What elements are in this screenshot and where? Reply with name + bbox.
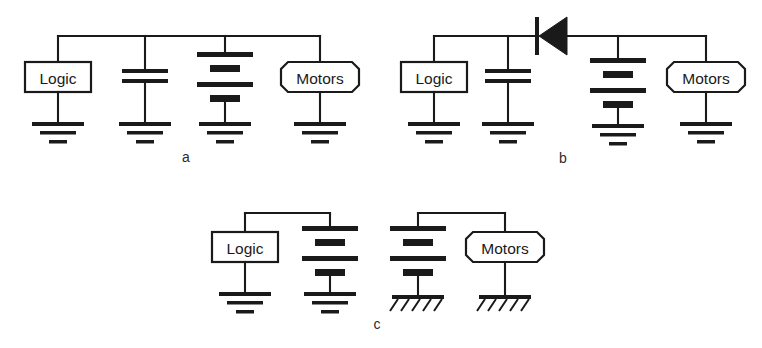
panel-b-motors-earth-ground [680,122,732,144]
panel-a-battery-branch [197,36,253,144]
panel-a-motors-earth-ground [294,122,346,144]
panel-c-logic-earth-ground [219,292,271,314]
panel-b-motors-branch: Motors [667,36,745,144]
panel-c-logic-branch: Logic [212,213,278,314]
panel-b-motors-label: Motors [682,70,730,87]
panel-a: Logic [25,36,359,165]
panel-b-diode [535,17,567,55]
panel-c-caption: c [374,316,381,332]
panel-b-diode-anode-triangle [539,17,567,55]
panel-a-logic-earth-ground [32,122,84,144]
panel-b-battery-earth-ground [592,124,644,146]
schematic-canvas: Logic [0,0,762,348]
panel-b-logic-branch: Logic [401,36,467,144]
panel-c-motors-subcircuit: Motors [390,213,544,311]
panel-a-caption: a [182,149,190,165]
panel-b-capacitor-earth-ground [482,122,534,144]
panel-c-logic-subcircuit: Logic [212,213,358,314]
panel-c: Logic [212,213,544,332]
panel-c-logic-label: Logic [226,240,263,257]
panel-b-logic-earth-ground [408,122,460,144]
panel-b-battery [590,58,646,108]
panel-c-motors-branch: Motors [466,213,544,311]
panel-b-capacitor-branch [482,36,534,144]
panel-a-capacitor-branch [119,36,171,144]
grounding-schematic-figure: Logic [0,0,762,348]
panel-a-logic-branch: Logic [25,36,91,144]
panel-c-left-battery-branch [302,213,358,314]
panel-b-caption: b [559,150,567,166]
panel-a-motors-branch: Motors [281,36,359,144]
panel-c-motors-chassis-ground [477,295,531,311]
panel-c-right-battery-branch [390,213,446,311]
panel-b-logic-label: Logic [415,70,452,87]
panel-b: Logic [401,17,745,166]
panel-a-motors-label: Motors [296,70,344,87]
panel-a-battery-earth-ground [199,122,251,144]
panel-a-capacitor [122,69,168,83]
panel-c-right-battery [390,226,446,276]
panel-c-motors-label: Motors [481,240,529,257]
panel-a-battery [197,52,253,102]
panel-c-right-battery-chassis-ground [390,295,444,311]
panel-a-capacitor-earth-ground [119,122,171,144]
panel-b-capacitor [485,69,531,83]
panel-c-left-battery-earth-ground [304,292,356,314]
panel-b-battery-branch [590,36,646,146]
panel-a-logic-label: Logic [39,70,76,87]
panel-c-left-battery [302,226,358,276]
